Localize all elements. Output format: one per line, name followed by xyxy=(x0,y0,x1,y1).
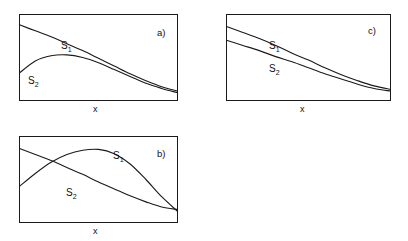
panel-c-frame xyxy=(227,15,391,101)
panel-b-label: b) xyxy=(157,148,165,159)
panel-c-curve-s1 xyxy=(227,27,391,90)
panel-a: a) S1 S2 x xyxy=(20,15,178,115)
panel-c-series-label-s1: S1 xyxy=(269,40,280,53)
panel-b-curve-s2 xyxy=(20,149,178,210)
panel-c: c) S1 S2 x xyxy=(227,15,391,115)
panel-b-series-label-s1: S1 xyxy=(113,150,124,163)
panel-a-series-label-s2: S2 xyxy=(28,75,39,88)
panel-b-x-axis-label: x xyxy=(93,226,98,236)
panel-b-series-label-s2: S2 xyxy=(66,187,77,200)
panel-a-x-axis-label: x xyxy=(93,104,98,114)
panel-c-x-axis-label: x xyxy=(300,104,305,114)
panel-a-label: a) xyxy=(157,27,165,38)
panel-c-label: c) xyxy=(368,25,376,36)
three-panel-line-chart-figure: a) S1 S2 x b) S1 S2 x c) S1 S2 x xyxy=(0,0,408,241)
panel-c-series-label-s2: S2 xyxy=(269,63,280,76)
panel-a-curve-s2 xyxy=(20,55,178,93)
panel-a-series-label-s1: S1 xyxy=(61,40,72,53)
panel-b: b) S1 S2 x xyxy=(20,137,178,237)
figure-container: a) S1 S2 x b) S1 S2 x c) S1 S2 x xyxy=(0,0,408,241)
panel-b-curve-s1 xyxy=(20,149,178,211)
